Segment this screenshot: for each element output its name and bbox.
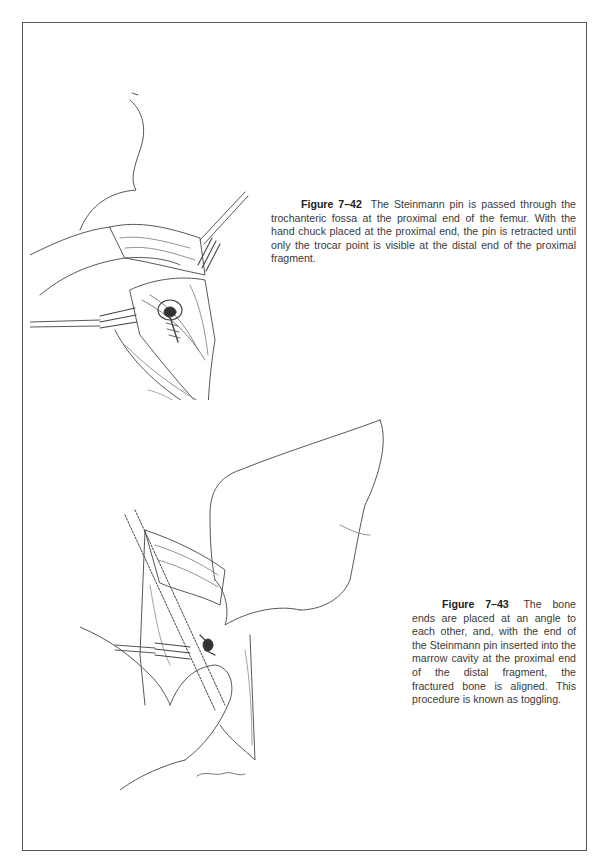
figure-7-43-label: Figure 7–43 bbox=[442, 598, 509, 610]
figure-7-42-caption: Figure 7–42 The Steinmann pin is passed … bbox=[271, 198, 576, 266]
figure-7-43-illustration bbox=[80, 405, 400, 790]
figure-7-43-caption: Figure 7–43 The bone ends are placed at … bbox=[412, 598, 576, 707]
figure-7-42-label: Figure 7–42 bbox=[301, 198, 362, 210]
figure-7-43-caption-text: The bone ends are placed at an angle to … bbox=[412, 598, 576, 705]
figure-7-42-illustration bbox=[30, 80, 270, 400]
